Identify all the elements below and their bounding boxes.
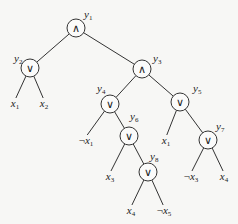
literal-leaf: ¬x3: [184, 170, 199, 184]
literal-leaf: x4: [219, 170, 229, 184]
literal-leaf: x3: [105, 170, 115, 184]
edge-y7-l6: [192, 148, 204, 171]
edge-y4-y6: [115, 112, 125, 129]
edge-y6-y8: [133, 144, 144, 164]
edge-y6-l4: [111, 144, 125, 171]
edge-y5-y7: [185, 109, 202, 133]
literal-leaf: x1: [161, 134, 171, 148]
edge-y7-l7: [212, 148, 223, 171]
literal-leaf: x4: [126, 204, 136, 218]
and-operator-icon: ∧: [72, 22, 80, 35]
edge-y2-l2: [34, 76, 43, 98]
gate-node-y7: ∨y7: [199, 120, 225, 149]
edge-y8-l8: [132, 180, 144, 205]
gate-label: y8: [149, 150, 159, 164]
edge-y3-y4: [116, 76, 136, 98]
gate-label: y3: [152, 52, 162, 66]
literal-leaf: x1: [10, 97, 20, 111]
leaves-layer: x1x2¬x1x3x1¬x3x4x4¬x5: [10, 97, 229, 218]
gate-node-y1: ∧y1: [67, 8, 93, 37]
gate-label: y5: [192, 82, 202, 96]
and-operator-icon: ∧: [138, 63, 146, 76]
or-operator-icon: ∨: [26, 62, 34, 75]
or-operator-icon: ∨: [125, 130, 133, 143]
edge-y2-l1: [16, 76, 26, 98]
gate-node-y6: ∨y6: [120, 110, 139, 145]
literal-leaf: ¬x1: [79, 134, 94, 148]
gate-node-y4: ∨y4: [96, 82, 119, 113]
or-operator-icon: ∨: [144, 166, 152, 179]
literal-leaf: ¬x5: [157, 204, 172, 218]
gate-node-y5: ∨y5: [171, 82, 202, 111]
gate-node-y2: ∨y2: [13, 52, 39, 77]
gate-node-y3: ∧y3: [133, 52, 162, 78]
gate-label: y6: [129, 110, 139, 124]
formula-tree-diagram: ∧y1∨y2∧y3∨y4∨y5∨y6∨y7∨y8 x1x2¬x1x3x1¬x3x…: [0, 0, 238, 224]
gate-node-y8: ∨y8: [139, 150, 159, 181]
gate-label: y7: [215, 120, 225, 134]
literal-leaf: x2: [39, 97, 49, 111]
or-operator-icon: ∨: [106, 98, 114, 111]
edge-y3-y5: [149, 75, 173, 96]
or-operator-icon: ∨: [204, 134, 212, 147]
edge-y4-l3: [87, 111, 104, 135]
gate-label: y2: [13, 52, 23, 66]
edge-y1-y2: [37, 34, 69, 62]
edge-y8-l9: [152, 180, 163, 205]
gate-label: y1: [83, 8, 93, 22]
edge-y5-l5: [167, 110, 177, 135]
or-operator-icon: ∨: [176, 96, 184, 109]
edge-y1-y3: [84, 33, 135, 65]
gate-label: y4: [96, 82, 106, 96]
